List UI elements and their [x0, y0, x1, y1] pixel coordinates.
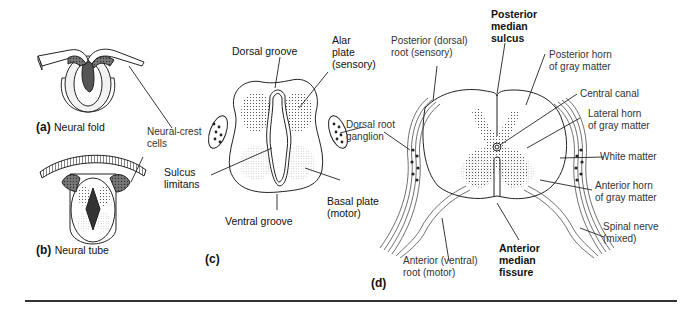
- panel-d-letter: (d): [371, 276, 386, 290]
- panel-d-caption: (d): [371, 276, 386, 290]
- panel-a-letter: (a): [36, 120, 51, 134]
- label-posterior-horn: Posterior horn of gray matter: [549, 49, 612, 73]
- label-anterior-median-fissure: Anterior median fissure: [499, 242, 540, 278]
- label-anterior-horn: Anterior horn of gray matter: [595, 180, 657, 204]
- label-posterior-median-sulcus: Posterior median sulcus: [491, 8, 537, 44]
- label-dorsal-root-ganglion: Dorsal root ganglion: [346, 119, 395, 143]
- label-sulcus-limitans: Sulcus limitans: [164, 166, 200, 190]
- label-posterior-dorsal-root: Posterior (dorsal) root (sensory): [391, 35, 468, 59]
- label-lateral-horn: Lateral horn of gray matter: [588, 108, 650, 132]
- spinal-cord-cross-section: [380, 90, 614, 258]
- label-dorsal-groove: Dorsal groove: [232, 45, 297, 57]
- panel-b-title: Neural tube: [55, 244, 109, 256]
- label-central-canal: Central canal: [580, 88, 639, 100]
- panel-c-caption: (c): [205, 252, 220, 266]
- label-ventral-groove: Ventral groove: [225, 215, 293, 227]
- neural-fold-illustration: [38, 49, 144, 112]
- label-alar-plate: Alar plate (sensory): [332, 34, 376, 70]
- panel-b-letter: (b): [36, 243, 51, 257]
- label-spinal-nerve: Spinal nerve (mixed): [603, 221, 659, 245]
- neural-tube-illustration: [40, 155, 146, 244]
- label-basal-plate: Basal plate (motor): [327, 195, 379, 219]
- bottom-divider-rule: [25, 300, 677, 302]
- label-anterior-ventral-root: Anterior (ventral) root (motor): [403, 255, 477, 279]
- label-white-matter: White matter: [600, 151, 657, 163]
- panel-a-caption: (a) Neural fold: [36, 120, 105, 134]
- label-neural-crest-cells: Neural-crest cells: [147, 126, 201, 150]
- panel-c-letter: (c): [205, 252, 220, 266]
- panel-b-caption: (b) Neural tube: [36, 243, 109, 257]
- panel-a-title: Neural fold: [54, 121, 105, 133]
- neural-tube-cross-section: [205, 79, 352, 192]
